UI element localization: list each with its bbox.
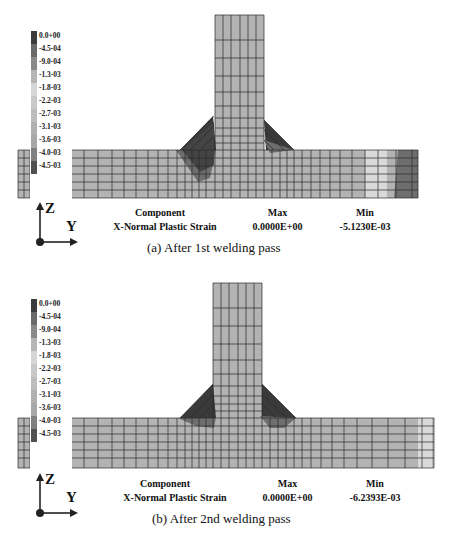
legend-label: -1.3-03: [39, 338, 61, 347]
legend-swatch: [31, 148, 37, 161]
component-header: Component: [130, 207, 190, 218]
legend-label: -4.5-03: [39, 161, 61, 170]
axis-triad: Z Y: [30, 471, 80, 521]
axis-z-label: Z: [45, 471, 55, 488]
legend-label: 0.0+00: [39, 299, 60, 308]
max-header: Max: [255, 207, 300, 218]
legend-row: -1.3-03: [31, 70, 91, 83]
legend-row: -9.0-04: [31, 325, 91, 338]
legend-swatch: [31, 351, 37, 364]
legend-label: -2.7-03: [39, 109, 61, 118]
legend-label: -4.5-04: [39, 44, 61, 53]
min-value: -5.1230E-03: [330, 221, 400, 232]
legend-row: -4.0-03: [31, 416, 91, 429]
component-value: X-Normal Plastic Strain: [105, 221, 225, 232]
legend-swatch: [31, 83, 37, 96]
max-value: 0.0000E+00: [245, 221, 310, 232]
legend-swatch: [31, 325, 37, 338]
legend-row: -2.2-03: [31, 96, 91, 109]
min-header: Min: [345, 207, 385, 218]
legend-swatch: [31, 364, 37, 377]
legend-label: -3.1-03: [39, 390, 61, 399]
legend-swatch: [31, 299, 37, 312]
legend-label: -2.7-03: [39, 377, 61, 386]
legend-label: 0.0+00: [39, 31, 60, 40]
legend-row: -2.7-03: [31, 377, 91, 390]
legend-swatch: [31, 429, 37, 442]
legend-swatch: [31, 122, 37, 135]
legend-label: -4.5-04: [39, 312, 61, 321]
legend-swatch: [31, 31, 37, 44]
panel-caption: (a) After 1st welding pass: [147, 240, 281, 256]
component-value: X-Normal Plastic Strain: [110, 492, 240, 503]
legend-label: -3.6-03: [39, 403, 61, 412]
legend-row: -1.8-03: [31, 351, 91, 364]
legend-row: -3.1-03: [31, 122, 91, 135]
max-value: 0.0000E+00: [255, 492, 320, 503]
legend-row: -1.8-03: [31, 83, 91, 96]
legend-label: -4.0-03: [39, 416, 61, 425]
legend-row: -2.2-03: [31, 364, 91, 377]
legend-swatch: [31, 44, 37, 57]
legend-swatch: [31, 135, 37, 148]
legend-label: -4.5-03: [39, 429, 61, 438]
legend-swatch: [31, 377, 37, 390]
legend-row: 0.0+00: [31, 299, 91, 312]
axis-triad: Z Y: [30, 200, 80, 250]
legend-swatch: [31, 161, 37, 174]
legend-label: -1.8-03: [39, 351, 61, 360]
legend-label: -1.8-03: [39, 83, 61, 92]
legend-swatch: [31, 390, 37, 403]
legend-swatch: [31, 57, 37, 70]
panel-second-pass: 0.0+00 -4.5-04 -9.0-04 -1.3-03 -1.8-03 -…: [0, 268, 449, 540]
panel-caption: (b) After 2nd welding pass: [152, 511, 291, 527]
axis-y-label: Y: [66, 218, 77, 235]
legend-label: -1.3-03: [39, 70, 61, 79]
legend-row: -4.0-03: [31, 148, 91, 161]
legend-row: -3.1-03: [31, 390, 91, 403]
min-header: Min: [355, 478, 395, 489]
legend-row: -4.5-03: [31, 161, 91, 174]
min-value: -6.2393E-03: [340, 492, 410, 503]
legend-label: -9.0-04: [39, 57, 61, 66]
max-header: Max: [265, 478, 310, 489]
legend-row: 0.0+00: [31, 31, 91, 44]
component-header: Component: [135, 478, 195, 489]
legend-row: -4.5-03: [31, 429, 91, 442]
axis-z-label: Z: [45, 200, 55, 217]
legend-row: -3.6-03: [31, 403, 91, 416]
legend-row: -4.5-04: [31, 44, 91, 57]
legend-swatch: [31, 338, 37, 351]
legend-label: -2.2-03: [39, 96, 61, 105]
legend-swatch: [31, 109, 37, 122]
legend-row: -1.3-03: [31, 338, 91, 351]
legend-swatch: [31, 403, 37, 416]
legend-swatch: [31, 96, 37, 109]
strain-legend: 0.0+00 -4.5-04 -9.0-04 -1.3-03 -1.8-03 -…: [31, 31, 91, 174]
legend-label: -9.0-04: [39, 325, 61, 334]
legend-label: -2.2-03: [39, 364, 61, 373]
legend-swatch: [31, 70, 37, 83]
legend-row: -9.0-04: [31, 57, 91, 70]
legend-swatch: [31, 312, 37, 325]
legend-row: -3.6-03: [31, 135, 91, 148]
legend-label: -3.1-03: [39, 122, 61, 131]
legend-row: -2.7-03: [31, 109, 91, 122]
strain-legend: 0.0+00 -4.5-04 -9.0-04 -1.3-03 -1.8-03 -…: [31, 299, 91, 442]
legend-label: -3.6-03: [39, 135, 61, 144]
legend-swatch: [31, 416, 37, 429]
legend-row: -4.5-04: [31, 312, 91, 325]
panel-first-pass: 0.0+00 -4.5-04 -9.0-04 -1.3-03 -1.8-03 -…: [0, 0, 449, 272]
axis-y-label: Y: [66, 489, 77, 506]
legend-label: -4.0-03: [39, 148, 61, 157]
